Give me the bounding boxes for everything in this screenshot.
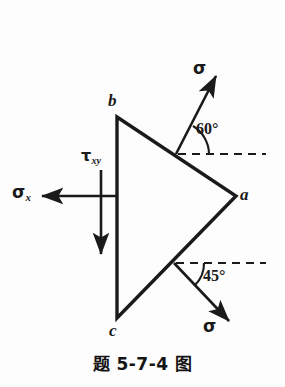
angle-label-45: 45° <box>203 268 225 284</box>
figure-root: b c a σx τxy σ σ 60° 45° 题 5-7-4 图 <box>0 0 285 387</box>
tau-xy-subscript: xy <box>91 155 101 166</box>
vertex-label-b: b <box>108 92 117 109</box>
sigma-x-label: σx <box>12 184 31 201</box>
tau-xy-symbol: τ <box>81 146 91 165</box>
tau-xy-label: τxy <box>81 148 101 164</box>
sigma-x-subscript: x <box>25 191 30 203</box>
sigma-top-label: σ <box>193 60 206 77</box>
vertex-label-a: a <box>240 186 249 203</box>
angle-label-60: 60° <box>196 121 218 137</box>
sigma-arrow-top <box>176 76 216 154</box>
sigma-bottom-label: σ <box>203 318 216 335</box>
wedge-outline <box>117 117 236 318</box>
sigma-x-symbol: σ <box>12 182 25 202</box>
wedge-path <box>117 117 236 318</box>
figure-caption: 题 5-7-4 图 <box>0 350 285 375</box>
vertex-label-c: c <box>109 322 117 339</box>
